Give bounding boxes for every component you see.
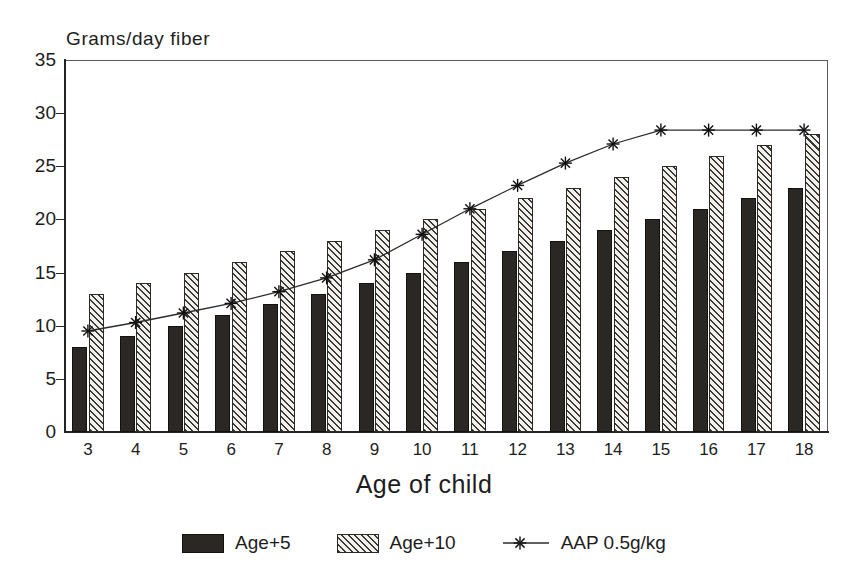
x-tick-label: 7 — [255, 440, 303, 460]
legend-label-age10: Age+10 — [390, 532, 456, 554]
bar-age-plus-10 — [375, 230, 390, 432]
x-tick-label: 3 — [64, 440, 112, 460]
bar-age-plus-5 — [406, 273, 421, 432]
bar-age-plus-10 — [280, 251, 295, 432]
bar-age-plus-10 — [709, 156, 724, 432]
legend-item-aap: AAP 0.5g/kg — [502, 532, 666, 554]
y-axis-title: Grams/day fiber — [66, 28, 210, 50]
bar-age-plus-5 — [168, 326, 183, 432]
hatched-swatch-icon — [337, 534, 379, 553]
x-tick-label: 16 — [685, 440, 733, 460]
bar-age-plus-10 — [423, 219, 438, 432]
x-tick-label: 14 — [589, 440, 637, 460]
x-tick-label: 4 — [112, 440, 160, 460]
bar-age-plus-5 — [693, 209, 708, 432]
bar-age-plus-10 — [184, 273, 199, 432]
bar-age-plus-10 — [614, 177, 629, 432]
y-tick-label: 20 — [8, 209, 56, 228]
y-tick-label: 15 — [8, 263, 56, 282]
x-tick-label: 10 — [398, 440, 446, 460]
bar-age-plus-5 — [550, 241, 565, 432]
bar-age-plus-5 — [597, 230, 612, 432]
y-tick-label: 25 — [8, 156, 56, 175]
bar-age-plus-5 — [359, 283, 374, 432]
bar-age-plus-10 — [805, 134, 820, 432]
y-tick-label: 0 — [8, 422, 56, 441]
x-tick-label: 12 — [494, 440, 542, 460]
fiber-intake-chart: Grams/day fiber 05101520253035 345678910… — [0, 0, 848, 587]
bar-age-plus-10 — [566, 188, 581, 432]
bar-age-plus-5 — [311, 294, 326, 432]
bar-age-plus-10 — [471, 209, 486, 432]
chart-legend: Age+5 Age+10 AAP 0.5g/kg — [0, 532, 848, 554]
y-tick-label: 35 — [8, 50, 56, 69]
bar-age-plus-5 — [72, 347, 87, 432]
bar-age-plus-10 — [757, 145, 772, 432]
legend-label-age5: Age+5 — [235, 532, 290, 554]
x-axis-title: Age of child — [0, 470, 848, 499]
legend-label-aap: AAP 0.5g/kg — [561, 532, 666, 554]
legend-item-age10: Age+10 — [337, 532, 456, 554]
bar-age-plus-5 — [645, 219, 660, 432]
x-tick-label: 6 — [207, 440, 255, 460]
x-tick-label: 17 — [732, 440, 780, 460]
bar-age-plus-10 — [89, 294, 104, 432]
x-tick-label: 15 — [637, 440, 685, 460]
bar-age-plus-10 — [518, 198, 533, 432]
bar-age-plus-5 — [263, 304, 278, 432]
y-tick-label: 10 — [8, 316, 56, 335]
asterisk-line-icon — [502, 533, 550, 553]
x-tick-label: 13 — [541, 440, 589, 460]
x-tick-label: 5 — [159, 440, 207, 460]
x-tick-label: 9 — [350, 440, 398, 460]
bar-age-plus-5 — [215, 315, 230, 432]
bar-age-plus-10 — [662, 166, 677, 432]
x-tick-label: 18 — [780, 440, 828, 460]
bar-age-plus-5 — [454, 262, 469, 432]
y-tick-label: 30 — [8, 103, 56, 122]
bar-age-plus-5 — [741, 198, 756, 432]
bar-series-layer — [64, 60, 828, 432]
x-tick-label: 11 — [446, 440, 494, 460]
bar-age-plus-5 — [120, 336, 135, 432]
bar-age-plus-10 — [327, 241, 342, 432]
legend-item-age5: Age+5 — [182, 532, 290, 554]
bar-age-plus-10 — [232, 262, 247, 432]
bar-age-plus-5 — [502, 251, 517, 432]
bar-age-plus-5 — [788, 188, 803, 432]
y-tick-label: 5 — [8, 369, 56, 388]
solid-swatch-icon — [182, 534, 224, 553]
bar-age-plus-10 — [136, 283, 151, 432]
x-tick-label: 8 — [303, 440, 351, 460]
